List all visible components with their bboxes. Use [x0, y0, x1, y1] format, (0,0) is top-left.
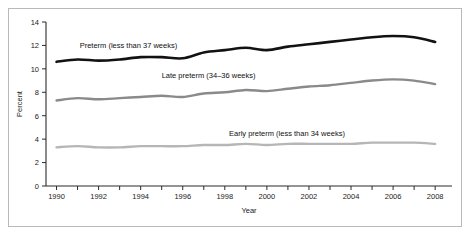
series-label-2: Early preterm (less than 34 weeks): [229, 129, 345, 138]
x-tick-label: 2004: [343, 192, 360, 201]
y-tick-label: 8: [35, 88, 39, 97]
x-tick-label: 1992: [90, 192, 107, 201]
y-tick-label: 14: [31, 18, 39, 27]
x-axis-title: Year: [241, 206, 257, 215]
y-tick-label: 2: [35, 158, 39, 167]
x-tick-label: 1994: [132, 192, 149, 201]
y-axis-title: Percent: [15, 90, 24, 117]
series-labels: Preterm (less than 37 weeks)Late preterm…: [80, 41, 346, 138]
y-axis: 02468101214: [31, 18, 46, 191]
x-tick-label: 2002: [301, 192, 318, 201]
x-tick-label: 1998: [216, 192, 233, 201]
y-tick-label: 6: [35, 112, 39, 121]
y-tick-label: 12: [31, 41, 39, 50]
series-label-1: Late preterm (34–36 weeks): [162, 71, 256, 80]
line-chart: 02468101214 1990199219941996199820002002…: [0, 0, 472, 237]
x-tick-label: 1996: [174, 192, 191, 201]
y-tick-label: 10: [31, 65, 39, 74]
x-tick-label: 2000: [259, 192, 276, 201]
y-tick-label: 4: [35, 135, 39, 144]
x-tick-label: 2006: [385, 192, 402, 201]
y-tick-label: 0: [35, 182, 39, 191]
chart-container: 02468101214 1990199219941996199820002002…: [0, 0, 472, 237]
x-tick-label: 2008: [427, 192, 444, 201]
x-axis: 1990199219941996199820002002200420062008: [46, 186, 452, 201]
series-line-1: [57, 79, 436, 100]
series-line-2: [57, 143, 436, 148]
x-tick-label: 1990: [48, 192, 65, 201]
series-label-0: Preterm (less than 37 weeks): [80, 41, 178, 50]
